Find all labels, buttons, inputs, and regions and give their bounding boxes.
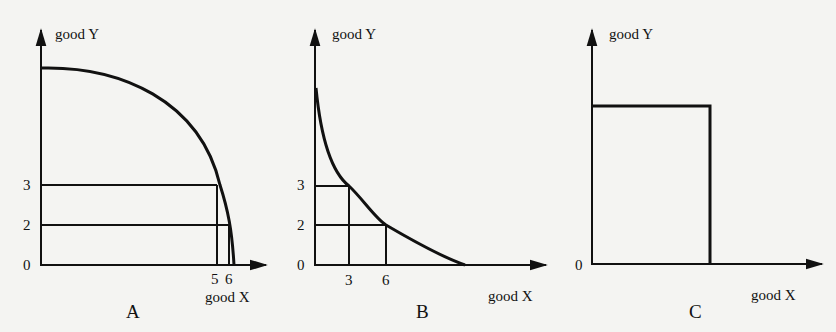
panel-b [314,30,546,266]
ppf-curve-concave [41,68,234,265]
ylabel-a: good Y [55,27,99,42]
panel-letter-b: B [416,302,429,321]
panel-a [40,30,266,266]
xtick-a-5: 5 [211,272,219,287]
ytick-b-2: 2 [297,218,305,233]
frontier-right-angle [592,106,710,264]
figure-canvas [0,0,836,332]
ytick-b-3: 3 [297,178,305,193]
ytick-c-0: 0 [575,258,583,273]
ytick-b-0: 0 [297,258,305,273]
ytick-a-2: 2 [23,218,31,233]
ylabel-c: good Y [609,27,653,42]
ylabel-b: good Y [332,27,376,42]
xtick-a-6: 6 [225,272,233,287]
panel-letter-a: A [126,302,140,321]
xlabel-c: good X [751,288,796,303]
curve-convex [316,88,465,265]
xtick-b-6: 6 [382,273,390,288]
xtick-b-3: 3 [345,273,353,288]
panel-c [591,30,822,265]
ytick-a-0: 0 [23,258,31,273]
ytick-a-3: 3 [23,178,31,193]
xlabel-a: good X [205,290,250,305]
xlabel-b: good X [488,289,533,304]
panel-letter-c: C [689,302,702,321]
